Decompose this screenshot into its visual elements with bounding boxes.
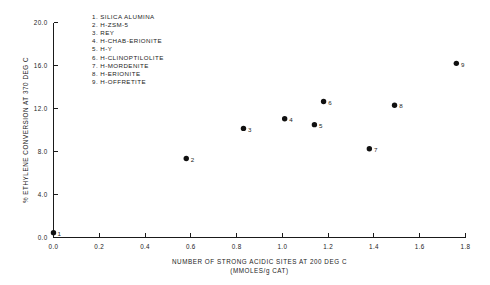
data-point-label: 3 bbox=[248, 126, 252, 133]
data-point bbox=[184, 156, 189, 161]
x-tick-label: 0.4 bbox=[140, 243, 150, 250]
x-tick-label: 0.8 bbox=[232, 243, 242, 250]
data-point bbox=[454, 61, 459, 66]
legend: 1. SILICA ALUMINA2. H-ZSM-53. REY4. H-CH… bbox=[92, 13, 164, 85]
data-point-label: 4 bbox=[289, 116, 293, 123]
legend-entry: 7. H-MORDENITE bbox=[92, 62, 149, 69]
data-point-label: 9 bbox=[461, 61, 465, 68]
data-point bbox=[392, 103, 397, 108]
legend-entry: 9. H-OFFRETITE bbox=[92, 78, 146, 85]
legend-entry: 2. H-ZSM-5 bbox=[92, 21, 129, 28]
x-tick-label: 0.2 bbox=[94, 243, 104, 250]
scatter-plot: 0.00.20.40.60.81.01.21.41.61.8 0.04.08.0… bbox=[0, 0, 490, 285]
axis-titles: NUMBER OF STRONG ACIDIC SITES AT 200 DEG… bbox=[22, 57, 347, 275]
x-tick-label: 1.8 bbox=[461, 243, 471, 250]
data-point bbox=[321, 99, 326, 104]
x-tick-label: 1.2 bbox=[323, 243, 333, 250]
x-tick-labels: 0.00.20.40.60.81.01.21.41.61.8 bbox=[49, 243, 471, 250]
y-tick-label: 4.0 bbox=[38, 191, 48, 198]
data-point bbox=[312, 122, 317, 127]
data-point-label: 8 bbox=[399, 102, 403, 109]
data-point-label: 5 bbox=[319, 122, 323, 129]
y-tick-label: 16.0 bbox=[34, 62, 48, 69]
x-tick-label: 0.6 bbox=[186, 243, 196, 250]
data-point-label: 6 bbox=[328, 99, 332, 106]
y-tick-label: 0.0 bbox=[38, 234, 48, 241]
data-point-label: 2 bbox=[191, 156, 195, 163]
data-point bbox=[51, 230, 56, 235]
x-axis-units: (MMOLES/g CAT) bbox=[230, 267, 288, 275]
data-point-label: 1 bbox=[58, 230, 62, 237]
data-point bbox=[282, 116, 287, 121]
y-tick-labels: 0.04.08.012.016.020.0 bbox=[34, 19, 48, 241]
data-point-labels: 123456789 bbox=[58, 61, 465, 237]
legend-entry: 4. H-CHAB-ERIONITE bbox=[92, 37, 162, 44]
legend-entry: 5. H-Y bbox=[92, 45, 112, 52]
data-point bbox=[367, 146, 372, 151]
legend-entry: 6. H-CLINOPTILOLITE bbox=[92, 54, 164, 61]
chart-container: 0.00.20.40.60.81.01.21.41.61.8 0.04.08.0… bbox=[0, 0, 490, 285]
y-axis-title: % ETHYLENE CONVERSION AT 370 DEG C bbox=[22, 57, 29, 203]
y-tick-label: 12.0 bbox=[34, 105, 48, 112]
y-tick-label: 20.0 bbox=[34, 19, 48, 26]
data-point-label: 7 bbox=[374, 146, 378, 153]
x-tick-label: 0.0 bbox=[49, 243, 59, 250]
x-tick-label: 1.0 bbox=[277, 243, 287, 250]
legend-entry: 8. H-ERIONITE bbox=[92, 70, 140, 77]
data-points bbox=[51, 61, 459, 236]
legend-entry: 1. SILICA ALUMINA bbox=[92, 13, 155, 20]
y-tick-label: 8.0 bbox=[38, 148, 48, 155]
legend-entry: 3. REY bbox=[92, 29, 114, 36]
x-axis-title: NUMBER OF STRONG ACIDIC SITES AT 200 DEG… bbox=[172, 258, 347, 265]
data-point bbox=[241, 126, 246, 131]
x-tick-label: 1.4 bbox=[369, 243, 379, 250]
x-tick-label: 1.6 bbox=[415, 243, 425, 250]
